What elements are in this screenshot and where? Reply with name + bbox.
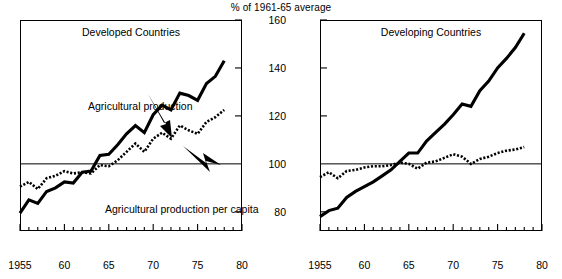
leader-arrow-per-capita: [183, 146, 221, 172]
x-tick-label: 60: [359, 259, 371, 271]
x-tick-label: 1955: [8, 259, 31, 271]
shared-y-axis: 16014012010080: [242, 20, 320, 231]
y-tick-label: 100: [242, 159, 286, 169]
x-tick-label: 80: [236, 259, 248, 271]
x-tick-label: 75: [192, 259, 204, 271]
x-tick-label: 60: [59, 259, 71, 271]
x-tick-label: 70: [147, 259, 159, 271]
plot-area-left: [20, 20, 242, 251]
y-tick-label: 160: [242, 15, 286, 25]
series-agricultural-production: [20, 61, 224, 213]
x-tick-label: 70: [447, 259, 459, 271]
agriculture-production-figure: % of 1961-65 average Developed Countries…: [0, 0, 562, 279]
annotation-agricultural-production-per-capita: Agricultural production per capita: [105, 203, 259, 215]
x-tick-label: 1955: [308, 259, 331, 271]
series-agricultural-production-per-capita: [320, 147, 524, 178]
y-tick-label: 140: [242, 63, 286, 73]
panel-developing-countries: Developing Countries: [320, 20, 542, 251]
x-tick-label: 65: [103, 259, 115, 271]
series-agricultural-production: [320, 33, 524, 216]
x-tick-label: 65: [403, 259, 415, 271]
series-agricultural-production-per-capita: [20, 110, 224, 189]
x-axis-right: 19556065707580: [320, 251, 542, 279]
panel-developed-countries: Developed Countries Agricultural product…: [20, 20, 242, 251]
x-tick-label: 80: [536, 259, 548, 271]
x-axis-left: 19556065707580: [20, 251, 242, 279]
plot-area-right: [320, 20, 542, 251]
y-tick-label: 120: [242, 111, 286, 121]
x-tick-label: 75: [492, 259, 504, 271]
annotation-agricultural-production: Agricultural production: [88, 100, 192, 112]
figure-supertitle: % of 1961-65 average: [0, 2, 562, 13]
y-tick-label: 80: [242, 207, 286, 217]
